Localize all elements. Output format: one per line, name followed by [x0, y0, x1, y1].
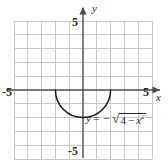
radicand: 4−x2 — [119, 113, 145, 126]
coordinate-plane-svg — [0, 0, 168, 166]
radicand-constant: 4 — [120, 114, 126, 126]
equation-leading-minus: − — [103, 113, 109, 124]
y-axis-arrow-icon — [79, 7, 86, 15]
equation-equals-sign: = — [93, 113, 99, 124]
graph-figure: y x 5 -5 -5 5 y = − √ 4−x2 y = -√(4 - x²… — [0, 0, 168, 166]
y-tick-label-bottom: -5 — [68, 145, 78, 157]
radicand-minus-sign: − — [128, 114, 134, 126]
y-tick-label-top: 5 — [72, 16, 78, 28]
equation-lhs: y — [86, 113, 91, 124]
x-axis-label: x — [156, 92, 161, 103]
radical-sign-icon: √ — [112, 113, 119, 125]
radical-expression: √ 4−x2 — [112, 113, 145, 126]
x-tick-label-right: 5 — [143, 86, 149, 98]
axis-lines — [6, 8, 160, 158]
y-axis-label: y — [92, 3, 97, 14]
radicand-exponent: 2 — [141, 113, 145, 121]
x-tick-label-left: -5 — [2, 86, 12, 98]
equation-annotation: y = − √ 4−x2 — [86, 113, 146, 126]
